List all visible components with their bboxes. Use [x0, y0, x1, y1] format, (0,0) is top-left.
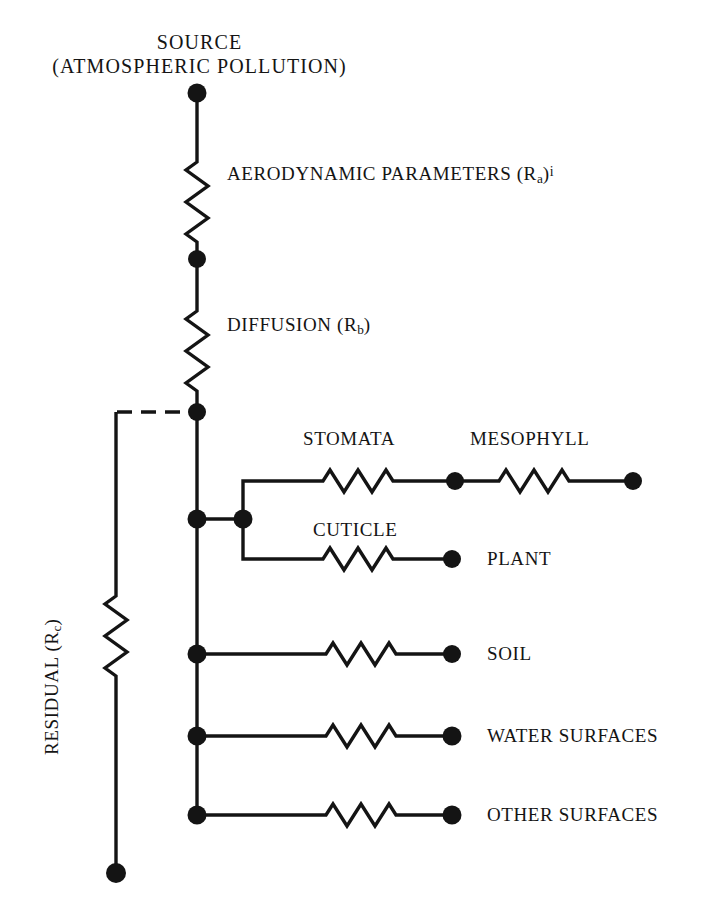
- label-plant: PLANT: [487, 548, 551, 570]
- label-aerodynamic-parameters: AERODYNAMIC PARAMETERS (Ra)i: [227, 163, 554, 187]
- title-line-atmospheric-pollution: (ATMOSPHERIC POLLUTION): [42, 55, 357, 79]
- resistor-water-surfaces: [318, 725, 452, 747]
- resistor-diffusion: [186, 302, 208, 412]
- node-mesophyll-mid: [446, 472, 464, 490]
- label-aerodynamic-superscript: i: [550, 164, 554, 179]
- label-residual-subscript: c: [49, 626, 64, 632]
- sub-junction-riser-up: [243, 481, 315, 519]
- label-cuticle: CUTICLE: [313, 519, 397, 541]
- label-soil: SOIL: [487, 643, 532, 665]
- node-plant-end: [443, 550, 461, 568]
- label-residual-tail: ): [41, 619, 62, 626]
- resistance-network-diagram: SOURCE (ATMOSPHERIC POLLUTION) AERODYNAM…: [0, 0, 705, 918]
- node-soil-end: [443, 645, 461, 663]
- resistor-mesophyll: [491, 470, 633, 492]
- resistor-stomata: [315, 470, 455, 492]
- node-water-end: [443, 727, 462, 746]
- label-diffusion-text: DIFFUSION (R: [227, 314, 357, 335]
- label-mesophyll: MESOPHYLL: [470, 428, 589, 450]
- node-plant-junction: [188, 510, 207, 529]
- node-other-end: [443, 806, 462, 825]
- label-aerodynamic-tail: ): [543, 163, 550, 184]
- sub-junction-riser-down: [243, 519, 315, 559]
- label-diffusion: DIFFUSION (Rb): [227, 314, 371, 338]
- label-diffusion-subscript: b: [357, 322, 364, 337]
- label-residual: RESIDUAL (Rc): [41, 619, 65, 755]
- node-water-junction: [188, 727, 207, 746]
- node-source: [188, 84, 207, 103]
- resistor-soil: [318, 643, 452, 665]
- resistor-aerodynamic: [186, 152, 208, 259]
- node-after-aerodynamic: [188, 250, 206, 268]
- resistor-other-surfaces: [318, 804, 452, 826]
- resistor-residual: [105, 588, 127, 873]
- node-mesophyll-end: [624, 472, 642, 490]
- node-soil-junction: [188, 645, 207, 664]
- label-residual-text: RESIDUAL (R: [41, 631, 62, 755]
- label-water-surfaces: WATER SURFACES: [487, 725, 658, 747]
- label-other-surfaces: OTHER SURFACES: [487, 804, 658, 826]
- circuit-schematic: [0, 0, 705, 918]
- node-residual-end: [106, 863, 126, 883]
- title-line-source: SOURCE: [42, 31, 357, 55]
- resistor-cuticle: [315, 548, 452, 570]
- label-stomata: STOMATA: [303, 428, 395, 450]
- label-aerodynamic-text: AERODYNAMIC PARAMETERS (R: [227, 163, 537, 184]
- node-sub-junction: [234, 510, 253, 529]
- node-after-diffusion: [188, 403, 206, 421]
- label-diffusion-tail: ): [364, 314, 371, 335]
- diagram-title: SOURCE (ATMOSPHERIC POLLUTION): [42, 31, 357, 78]
- node-other-junction: [188, 806, 207, 825]
